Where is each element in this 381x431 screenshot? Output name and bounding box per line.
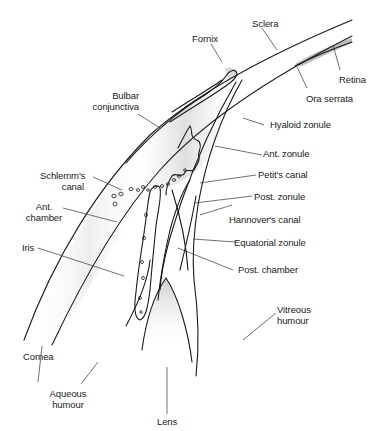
label-schlemms-canal: Schlemm's canal — [40, 170, 84, 192]
label-post-chamber: Post. chamber — [238, 264, 298, 275]
label-hannovers-canal: Hannover's canal — [229, 214, 301, 225]
eye-anatomy-diagram: Sclera Fornix Retina Ora serrata Bulbar … — [0, 0, 381, 431]
sclera-inner-line — [52, 36, 352, 345]
label-ant-chamber: Ant. chamber — [24, 201, 64, 223]
label-lens: Lens — [157, 416, 177, 427]
label-petits-canal: Petit's canal — [258, 169, 308, 180]
label-post-zonule: Post. zonule — [254, 191, 305, 202]
label-retina: Retina — [339, 74, 366, 85]
label-iris: Iris — [22, 242, 34, 253]
label-ant-zonule: Ant. zonule — [263, 148, 309, 159]
label-equatorial-zonule: Equatorial zonule — [234, 237, 306, 248]
label-aqueous-humour: Aqueous humour — [48, 388, 88, 410]
zonule-cross-1 — [172, 190, 188, 270]
cornea-posterior-line — [126, 260, 150, 326]
label-vitreous-humour: Vitreous humour — [277, 304, 311, 326]
label-ora-serrata: Ora serrata — [306, 93, 353, 104]
label-sclera: Sclera — [252, 18, 278, 29]
label-fornix: Fornix — [192, 33, 218, 44]
label-bulbar-conjunctiva: Bulbar conjunctiva — [90, 90, 139, 112]
label-cornea: Cornea — [23, 351, 54, 362]
label-hyaloid-zonule: Hyaloid zonule — [270, 119, 331, 130]
